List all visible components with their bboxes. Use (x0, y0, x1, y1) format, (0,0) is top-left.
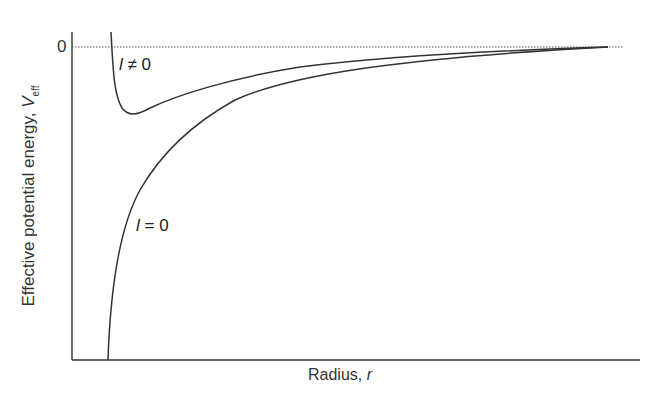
chart-canvas (0, 0, 659, 405)
x-axis-label-text: Radius, (308, 366, 367, 383)
y-axis-subscript: eff (30, 85, 41, 96)
y-axis-label-text: Effective potential energy, (19, 108, 38, 307)
y-zero-tick-label: 0 (57, 37, 66, 57)
x-axis-symbol: r (367, 366, 372, 383)
curve-l-zero (108, 47, 608, 360)
curve-label-l-zero: l = 0 (136, 216, 169, 236)
y-axis-label: Effective potential energy, Veff (19, 85, 40, 306)
x-axis-label: Radius, r (308, 366, 372, 384)
curve-label-l-nonzero: l ≠ 0 (119, 55, 151, 75)
y-axis-symbol: V (19, 96, 38, 107)
curve-l-nonzero (111, 32, 608, 114)
